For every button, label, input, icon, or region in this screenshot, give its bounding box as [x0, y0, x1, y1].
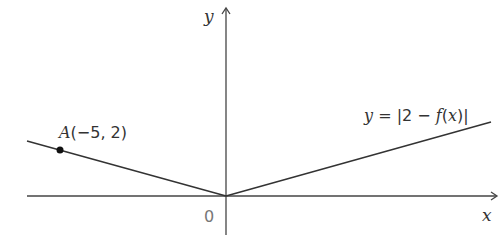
graph-canvas: y 0 x A(−5, 2) y = |2 − f(x)|: [0, 0, 504, 238]
y-axis-label: y: [203, 6, 214, 26]
origin-label: 0: [204, 207, 214, 226]
curve-equation-label: y = |2 − f(x)|: [363, 106, 469, 125]
point-a-label: A(−5, 2): [57, 123, 127, 142]
point-a-marker: [57, 147, 64, 154]
graph-right-branch: [226, 122, 491, 196]
x-axis-label: x: [482, 205, 492, 225]
